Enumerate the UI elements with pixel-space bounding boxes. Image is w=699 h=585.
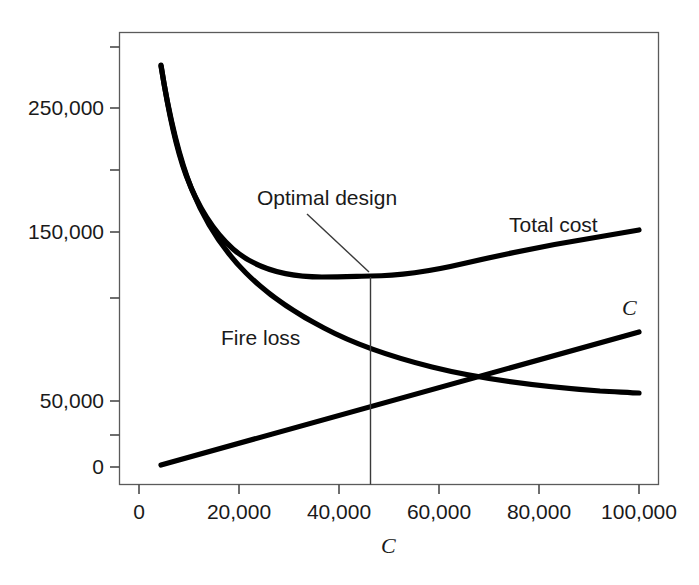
series-label-total-cost: Total cost xyxy=(509,213,598,237)
chart-figure: 250,000 150,000 50,000 0 0 20,000 40,000… xyxy=(0,0,699,585)
xtick-label-100000: 100,000 xyxy=(574,500,699,524)
y-axis-ticks xyxy=(110,108,120,467)
x-axis-ticks xyxy=(139,485,639,495)
xtick-label-0: 0 xyxy=(99,500,179,524)
plot-area xyxy=(0,0,699,585)
x-axis-title: C xyxy=(381,533,396,559)
ytick-label-50000: 50,000 xyxy=(0,389,104,413)
series-total-cost-curve xyxy=(161,65,639,277)
ytick-label-250000: 250,000 xyxy=(0,96,104,120)
ytick-label-0: 0 xyxy=(0,455,104,479)
y-axis-minor-ticks xyxy=(110,47,120,435)
series-capital-cost-line xyxy=(161,332,639,465)
series-label-capital-cost: C xyxy=(622,295,637,321)
series-label-fire-loss: Fire loss xyxy=(221,326,300,350)
optimal-design-leader-line xyxy=(307,214,369,272)
annotation-optimal-design: Optimal design xyxy=(257,186,397,210)
plot-frame xyxy=(120,33,659,485)
ytick-label-150000: 150,000 xyxy=(0,220,104,244)
